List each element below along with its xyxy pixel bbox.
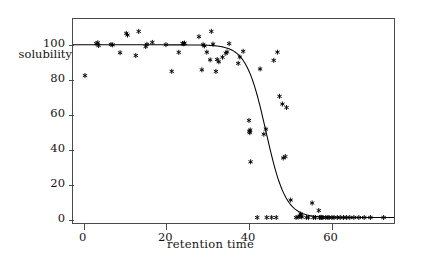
plot-canvas (73, 19, 394, 223)
data-point (236, 61, 240, 66)
y-tick-60 (69, 115, 74, 116)
data-point (83, 73, 87, 78)
data-point (317, 208, 321, 213)
data-point (248, 159, 252, 164)
data-point (265, 215, 269, 220)
data-point (280, 102, 284, 107)
data-point (150, 40, 154, 45)
data-point-group (83, 29, 386, 220)
x-axis-title: retention time (0, 238, 421, 251)
y-tick-label-0: 0 (58, 213, 65, 225)
y-tick-label-40: 40 (50, 143, 65, 155)
data-point (208, 57, 212, 62)
data-point (284, 105, 288, 110)
data-point (277, 94, 281, 99)
data-point (270, 215, 274, 220)
y-tick-40 (69, 150, 74, 151)
data-point (247, 118, 251, 123)
plot-area (73, 19, 394, 223)
data-point (137, 29, 141, 34)
y-tick-0 (69, 220, 74, 221)
y-tick-label-100: 100 (43, 38, 65, 50)
y-tick-label-60: 60 (50, 108, 65, 120)
data-point (262, 132, 266, 137)
data-point (118, 50, 122, 55)
data-point (134, 53, 138, 58)
data-point (241, 49, 245, 54)
y-tick-label-20: 20 (50, 178, 65, 190)
data-point (275, 50, 279, 55)
y-tick-label-80: 80 (50, 73, 65, 85)
data-point (258, 66, 262, 71)
data-point (177, 50, 181, 55)
data-point (170, 69, 174, 74)
plot-frame (72, 18, 395, 224)
data-point (220, 55, 224, 60)
data-point (274, 215, 278, 220)
data-point (272, 58, 276, 63)
data-point (227, 41, 231, 46)
scatter-plot-figure: solubility 020406080100 0204060 retentio… (0, 0, 421, 262)
data-point (264, 127, 268, 132)
data-point (255, 215, 259, 220)
data-point (310, 201, 314, 206)
y-tick-20 (69, 185, 74, 186)
data-point (209, 29, 213, 34)
data-point (214, 69, 218, 74)
fitted-curve (73, 45, 394, 218)
y-tick-80 (69, 80, 74, 81)
data-point (200, 67, 204, 72)
y-tick-100 (69, 45, 74, 46)
data-point (197, 34, 201, 39)
data-point (205, 50, 209, 55)
